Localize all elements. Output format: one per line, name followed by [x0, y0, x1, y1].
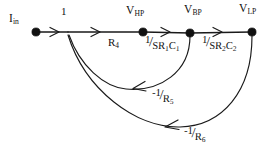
node-label-iin: Iin: [9, 13, 19, 25]
denominator-c-sub: 1: [176, 44, 180, 53]
fraction-minus-1-over-r5: -1/R5: [152, 88, 174, 102]
fraction-numerator: -1: [184, 126, 193, 137]
fraction-numerator: 1: [145, 35, 151, 46]
edge-label-r4-sub: 4: [115, 41, 119, 50]
node-label-iin-sub: in: [13, 17, 19, 26]
fraction-numerator: 1: [202, 35, 208, 46]
fraction-1-over-sr2c2: 1/SR2C2: [202, 35, 237, 49]
denominator-sr-sub: 2: [222, 44, 226, 53]
edge-label-gain-one: 1: [61, 6, 67, 17]
denominator-sr: SR: [152, 40, 165, 51]
node-label-vbp: VBP: [184, 4, 202, 16]
fraction-denominator: R5: [163, 94, 174, 105]
node-label-vlp-sub: LP: [247, 7, 256, 16]
fraction-numerator: -1: [152, 88, 161, 99]
fraction-denominator: SR1C1: [152, 41, 180, 52]
denominator-sr: SR: [209, 40, 222, 51]
edge-label-gain-1-sr1c1: 1/SR1C1: [145, 33, 180, 49]
graph-drawing-layer: [0, 0, 271, 153]
denominator-sr-sub: 1: [165, 44, 169, 53]
edge-label-feedback-r5: -1/R5: [152, 86, 174, 102]
denominator-r-sub: 5: [170, 97, 174, 106]
node-dot-vbp: [186, 29, 194, 37]
signal-flow-graph-figure: Iin VHP VBP VLP 1 R4 1/SR1C1 1/SR2C2 -1/…: [0, 0, 271, 153]
denominator-r-sub: 6: [202, 135, 206, 144]
node-label-vhp-sub: HP: [134, 9, 144, 18]
denominator-c-sub: 2: [233, 44, 237, 53]
edge-label-gain-1-sr2c2: 1/SR2C2: [202, 33, 237, 49]
fraction-1-over-sr1c1: 1/SR1C1: [145, 35, 180, 49]
edge-label-r4: R4: [108, 37, 119, 48]
fraction-minus-1-over-r6: -1/R6: [184, 126, 206, 140]
node-label-vhp: VHP: [126, 5, 144, 17]
node-dot-vlp: [248, 28, 256, 36]
edge-label-feedback-r6: -1/R6: [184, 124, 206, 140]
fraction-denominator: SR2C2: [209, 41, 237, 52]
fraction-denominator: R6: [195, 132, 206, 143]
node-label-vbp-sub: BP: [192, 8, 201, 17]
arrowhead-feedback-r6: [165, 120, 179, 130]
node-dot-iin: [32, 28, 40, 36]
node-label-vlp: VLP: [239, 3, 256, 15]
